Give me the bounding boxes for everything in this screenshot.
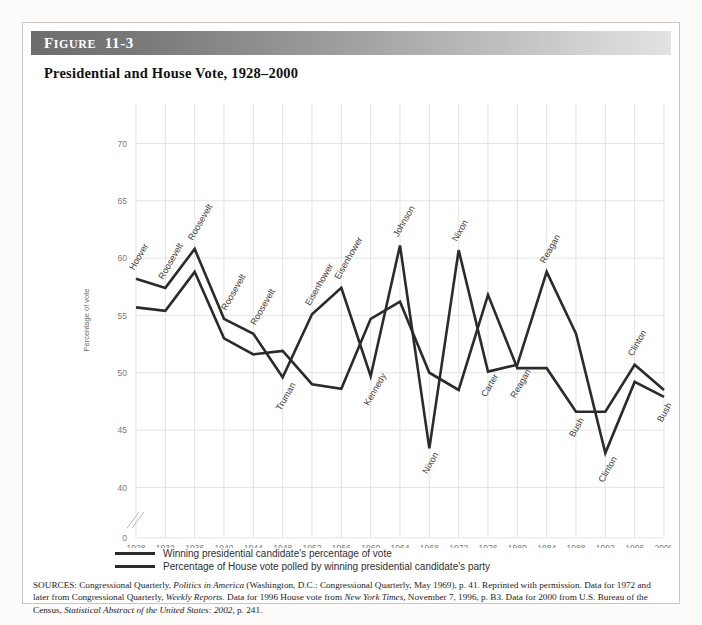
y-tick-label: 60	[118, 253, 128, 263]
sources-note: SOURCES: Congressional Quarterly, Politi…	[33, 579, 669, 616]
chart-legend: Winning presidential candidate's percent…	[115, 547, 635, 573]
figure-word-rest: IGURE	[54, 37, 96, 51]
figure-number: 11-3	[105, 35, 134, 51]
y-axis-title: Percentage of vote	[82, 289, 91, 352]
figure-title: Presidential and House Vote, 1928–2000	[44, 65, 298, 82]
point-annotation: Reagan	[508, 367, 532, 399]
y-tick-label: 55	[118, 311, 128, 321]
point-annotation: Roosevelt	[248, 287, 277, 327]
point-annotation: Hoover	[127, 242, 150, 272]
legend-label-house: Percentage of House vote polled by winni…	[163, 561, 490, 572]
page-background: FIGURE 11-3 Presidential and House Vote,…	[0, 0, 702, 625]
legend-item-house: Percentage of House vote polled by winni…	[115, 560, 635, 573]
figure-header-bar: FIGURE 11-3	[31, 31, 671, 55]
line-chart: 4045505560657001928193219361940194419481…	[31, 93, 671, 548]
point-annotation: Bush	[655, 401, 671, 424]
sources-text-1: SOURCES: Congressional Quarterly,	[33, 580, 173, 590]
sources-italic-2: Weekly Reports.	[166, 592, 225, 602]
axis-break-mark	[132, 512, 144, 528]
figure-card: FIGURE 11-3 Presidential and House Vote,…	[22, 22, 680, 604]
sources-text-3: Data for 1996 House vote from	[225, 592, 345, 602]
point-annotation: Bush	[567, 416, 586, 439]
chart-plot-area: 4045505560657001928193219361940194419481…	[31, 93, 671, 548]
legend-label-presidential: Winning presidential candidate's percent…	[163, 548, 392, 559]
legend-swatch-house	[115, 565, 155, 568]
point-annotation: Kennedy	[362, 371, 389, 407]
point-annotation: Johnson	[391, 204, 417, 238]
point-annotation: Eisenhower	[303, 262, 335, 308]
point-annotation: Roosevelt	[219, 272, 248, 312]
sources-italic-3: New York Times,	[344, 592, 405, 602]
sources-text-5: p. 241.	[235, 605, 263, 615]
x-tick-label: 2000	[655, 543, 671, 548]
sources-italic-4: Statistical Abstract of the United State…	[64, 605, 235, 615]
axis-break-mark	[127, 512, 139, 528]
y-tick-label: 40	[118, 483, 128, 493]
y-tick-label: 65	[118, 196, 128, 206]
point-annotation: Reagan	[538, 233, 562, 265]
y-tick-label-zero: 0	[122, 533, 127, 543]
legend-item-presidential: Winning presidential candidate's percent…	[115, 547, 635, 560]
y-tick-label: 45	[118, 425, 128, 435]
point-annotation: Truman	[274, 381, 298, 413]
point-annotation: Nixon	[420, 450, 440, 475]
point-annotation: Nixon	[450, 218, 470, 243]
point-annotation: Roosevelt	[156, 241, 185, 281]
point-annotation: Roosevelt	[186, 202, 215, 242]
point-annotation: Carter	[479, 372, 500, 399]
y-tick-label: 50	[118, 368, 128, 378]
point-annotation: Clinton	[596, 455, 619, 484]
figure-number-label: FIGURE 11-3	[31, 35, 134, 52]
sources-italic-1: Politics in America	[173, 580, 244, 590]
figure-word-first: F	[44, 35, 54, 51]
y-tick-label: 70	[118, 139, 128, 149]
point-annotation: Clinton	[626, 328, 649, 357]
legend-swatch-presidential	[115, 552, 155, 555]
